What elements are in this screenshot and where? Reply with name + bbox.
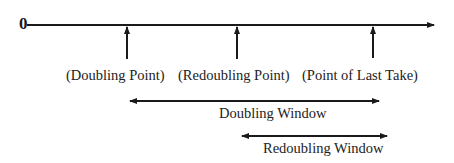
doubling-point-label: (Doubling Point) [66,67,165,84]
doubling-window-label: Doubling Window [219,105,327,121]
timeline-diagram: 0 (Doubling Point) (Redoubling Point) (P… [0,0,454,163]
origin-label: 0 [19,14,28,33]
redoubling-window-label: Redoubling Window [263,140,384,156]
redoubling-point-label: (Redoubling Point) [178,67,290,84]
last-take-point-label: (Point of Last Take) [302,67,418,84]
